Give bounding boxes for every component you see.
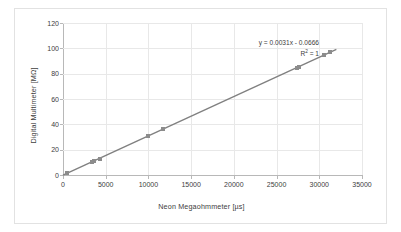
y-tick-label: 40 <box>29 121 59 128</box>
data-point <box>65 171 69 175</box>
x-axis-line <box>63 175 363 176</box>
x-tick-mark <box>148 176 149 179</box>
x-tick-mark <box>63 176 64 179</box>
y-tick-label: 80 <box>29 70 59 77</box>
x-tick-label: 10000 <box>126 181 170 188</box>
y-tick-label: 120 <box>29 20 59 27</box>
y-axis-title: Digital Multimeter [MΩ] <box>29 36 38 176</box>
data-point <box>92 159 96 163</box>
chart-figure: Digital Multimeter [MΩ] Neon Megaohmmete… <box>0 0 401 232</box>
x-tick-label: 20000 <box>212 181 256 188</box>
x-tick-mark <box>319 176 320 179</box>
r-squared-value: = 1 <box>308 50 319 57</box>
data-point <box>161 127 165 131</box>
data-point <box>297 65 301 69</box>
chart-plot-frame: Digital Multimeter [MΩ] Neon Megaohmmete… <box>14 8 387 224</box>
trendline-equation-text: y = 0.0031x - 0.0666 <box>211 38 319 48</box>
x-tick-mark <box>191 176 192 179</box>
x-tick-mark <box>106 176 107 179</box>
gridline-vertical <box>362 23 363 175</box>
trendline-r-squared-text: R2 = 1 <box>211 48 319 59</box>
x-tick-mark <box>362 176 363 179</box>
x-tick-label: 25000 <box>255 181 299 188</box>
x-tick-label: 35000 <box>340 181 384 188</box>
x-tick-label: 5000 <box>84 181 128 188</box>
y-tick-label: 20 <box>29 146 59 153</box>
x-tick-label: 15000 <box>169 181 213 188</box>
x-tick-mark <box>234 176 235 179</box>
x-tick-label: 30000 <box>297 181 341 188</box>
x-tick-mark <box>277 176 278 179</box>
y-tick-label: 100 <box>29 45 59 52</box>
data-point <box>146 134 150 138</box>
trendline-equation-annotation: y = 0.0031x - 0.0666 R2 = 1 <box>211 38 319 59</box>
x-tick-label: 0 <box>41 181 85 188</box>
data-point <box>328 50 332 54</box>
data-point <box>98 157 102 161</box>
y-tick-label: 60 <box>29 96 59 103</box>
y-tick-label: 0 <box>29 172 59 179</box>
data-point <box>322 53 326 57</box>
x-axis-title: Neon Megaohmmeter [µs] <box>15 202 388 211</box>
